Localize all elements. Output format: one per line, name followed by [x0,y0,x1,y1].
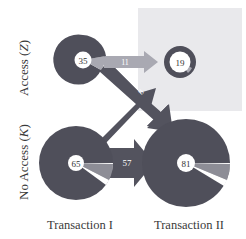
node-transaction2-access[interactable]: 19 [164,46,196,78]
flow-label-11: 11 [121,58,129,67]
flow-label-57: 57 [123,158,133,168]
node-transaction2-noaccess[interactable]: 81 [142,119,230,207]
node-label-65: 65 [72,159,82,169]
node-transaction1-access[interactable]: 35 [53,35,106,85]
node-transaction1-noaccess[interactable]: 65 [39,126,113,200]
transition-flow-diagram: Access (Z) No Access (K) Transaction I T… [0,0,246,239]
node-label-81: 81 [182,159,191,169]
node-label-35: 35 [79,56,89,66]
diagram-canvas: 24 8 11 57 35 [0,0,246,239]
node-label-19: 19 [176,58,186,68]
